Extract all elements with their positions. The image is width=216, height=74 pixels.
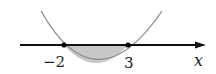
parabola-diagram: −2 3 x bbox=[0, 0, 216, 74]
diagram-svg: −2 3 x bbox=[0, 0, 216, 74]
root-label-left: −2 bbox=[43, 53, 65, 71]
axis-label-x: x bbox=[194, 51, 203, 70]
root-label-right: 3 bbox=[124, 54, 134, 72]
x-axis-arrow-icon bbox=[195, 42, 206, 49]
root-point-left bbox=[61, 42, 66, 47]
root-point-right bbox=[125, 42, 130, 47]
